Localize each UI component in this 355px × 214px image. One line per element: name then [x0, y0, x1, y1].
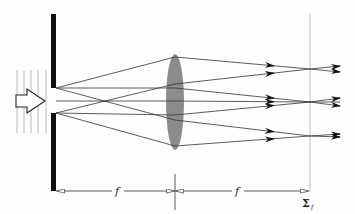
incident-arrow-icon	[16, 89, 45, 113]
diffraction-diagram: f f Σ f	[0, 0, 355, 214]
label-f-right: f	[234, 185, 241, 198]
label-f-left: f	[114, 185, 121, 198]
rays	[56, 57, 340, 146]
lens	[166, 54, 184, 150]
diagram-svg: f f Σ f	[0, 0, 355, 214]
slit-screen	[51, 14, 56, 191]
label-focal-plane: Σ	[302, 197, 310, 210]
label-focal-plane-subscript: f	[310, 203, 315, 211]
